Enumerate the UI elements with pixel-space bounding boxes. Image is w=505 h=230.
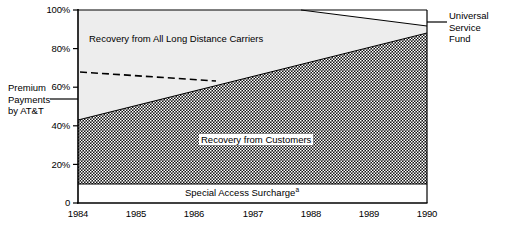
label-bottom-band: Special Access Surchargea (185, 187, 299, 198)
ytick-label-0: 0 (30, 197, 70, 208)
premium-line-2: Payments (8, 94, 50, 106)
chart-container: 100% 80% 60% 40% 20% 0 1984 1985 1986 19… (0, 0, 505, 230)
xtick-label-1986: 1986 (174, 208, 214, 219)
ytick-label-40: 40% (30, 120, 70, 131)
callout-universal-service-fund: Universal Service Fund (449, 10, 489, 45)
premium-line-3: by AT&T (8, 105, 50, 117)
ytick-label-100: 100% (30, 4, 70, 15)
callout-premium-payments: Premium Payments by AT&T (8, 82, 50, 117)
ytick-label-80: 80% (30, 43, 70, 54)
xtick-label-1985: 1985 (116, 208, 156, 219)
usf-line-3: Fund (449, 33, 489, 45)
label-middle-band: Recovery from Customers (199, 134, 313, 145)
xtick-label-1987: 1987 (233, 208, 273, 219)
ytick-label-20: 20% (30, 159, 70, 170)
xtick-label-1984: 1984 (58, 208, 98, 219)
label-bottom-band-footnote: a (295, 186, 299, 193)
label-bottom-band-text: Special Access Surcharge (185, 187, 295, 198)
xtick-label-1988: 1988 (291, 208, 331, 219)
usf-line-1: Universal (449, 10, 489, 22)
premium-line-1: Premium (8, 82, 50, 94)
xtick-label-1989: 1989 (349, 208, 389, 219)
xtick-label-1990: 1990 (407, 208, 447, 219)
label-top-band: Recovery from All Long Distance Carriers (89, 33, 263, 44)
usf-line-2: Service (449, 22, 489, 34)
